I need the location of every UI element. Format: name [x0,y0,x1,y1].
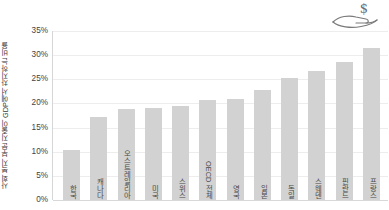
bar-slot: 오스트레일리아 [113,31,140,200]
bar[interactable]: 프랑스 [363,48,380,200]
bar-category-label: 미국 [150,184,157,198]
bar-slot: 캐나다 [85,31,112,200]
y-tick-label: 35% [32,27,48,35]
bar-slot: 핀란드 [331,31,358,200]
bar[interactable]: OECD 전체 [199,100,216,200]
dollar-sign-glyph: $ [360,1,368,16]
bar-category-label: 프랑스 [368,177,375,198]
bar[interactable]: 한국 [63,150,80,200]
bar[interactable]: 스웨덴 [308,71,325,200]
y-tick-label: 20% [32,99,48,107]
y-axis-title-text: 사회 복지 부문 지출이 GDP에서 차지하는 비율 [2,42,9,189]
y-tick-label: 10% [32,148,48,156]
y-tick-label: 5% [36,172,48,180]
bar[interactable]: 일본 [254,90,271,200]
bar-slot: 독일 [276,31,303,200]
chart-page: $ 사회 복지 부문 지출이 GDP에서 차지하는 비율 35%30%25%20… [0,0,389,210]
bar[interactable]: 오스트레일리아 [118,109,135,200]
y-tick-label: 15% [32,123,48,131]
bar-slot: 일본 [249,31,276,200]
bar-category-label: 핀란드 [340,177,347,198]
y-tick-label: 0% [36,196,48,204]
bar-category-label: 오스트레일리아 [122,149,129,198]
bar[interactable]: 영국 [227,99,244,200]
bar-category-label: 독일 [286,184,293,198]
bar-slot: OECD 전체 [194,31,221,200]
bar-category-label: 캐나다 [95,177,102,198]
bar[interactable]: 캐나다 [90,117,107,200]
bar-category-label: OECD 전체 [204,161,211,198]
axis-baseline [53,200,388,201]
bar-series: 한국캐나다오스트레일리아미국스위스OECD 전체영국일본독일스웨덴핀란드프랑스 [53,31,388,200]
bar-category-label: 스위스 [177,177,184,198]
bar-slot: 스위스 [167,31,194,200]
bar-category-label: 한국 [68,184,75,198]
y-tick-label: 30% [32,51,48,59]
bar-slot: 영국 [222,31,249,200]
bar-slot: 스웨덴 [303,31,330,200]
bar[interactable]: 독일 [281,78,298,200]
bar-slot: 한국 [58,31,85,200]
bar-slot: 미국 [140,31,167,200]
bar[interactable]: 핀란드 [336,62,353,200]
bar[interactable]: 스위스 [172,106,189,200]
hand-holding-dollar-icon: $ [325,0,385,30]
y-axis-title: 사회 복지 부문 지출이 GDP에서 차지하는 비율 [0,28,13,202]
bar-category-label: 영국 [231,184,238,198]
plot-area: 한국캐나다오스트레일리아미국스위스OECD 전체영국일본독일스웨덴핀란드프랑스 [52,31,388,200]
bar-category-label: 일본 [259,184,266,198]
bar[interactable]: 미국 [145,108,162,200]
bar-slot: 프랑스 [358,31,385,200]
bar-category-label: 스웨덴 [313,177,320,198]
y-tick-label: 25% [32,75,48,83]
y-axis-ticks: 35%30%25%20%15%10%5%0% [16,24,48,206]
